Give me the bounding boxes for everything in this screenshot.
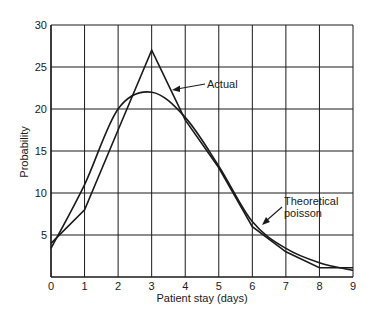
y-tick-label: 5 <box>41 229 47 241</box>
x-tick-label: 0 <box>48 280 54 292</box>
annotation-poisson: Theoretical poisson <box>262 195 338 225</box>
x-tick-label: 8 <box>316 280 322 292</box>
x-tick-label: 2 <box>115 280 121 292</box>
x-tick-label: 5 <box>216 280 222 292</box>
annotation-actual: Actual <box>172 78 238 92</box>
chart: 0123456789 51015202530 Actual Theoretica… <box>0 0 374 321</box>
y-tick-label: 15 <box>35 145 47 157</box>
y-tick-label: 10 <box>35 187 47 199</box>
x-axis-label: Patient stay (days) <box>156 292 247 304</box>
x-tick-label: 9 <box>350 280 356 292</box>
x-axis-ticks: 0123456789 <box>48 280 356 292</box>
x-tick-label: 1 <box>81 280 87 292</box>
annotation-poisson-label-line2: poisson <box>284 207 322 219</box>
y-tick-label: 20 <box>35 103 47 115</box>
y-axis-ticks: 51015202530 <box>35 19 47 241</box>
x-tick-label: 7 <box>283 280 289 292</box>
arrow-head-icon <box>172 86 180 93</box>
annotation-actual-label: Actual <box>207 78 238 90</box>
x-tick-label: 6 <box>249 280 255 292</box>
y-tick-label: 30 <box>35 19 47 31</box>
x-tick-label: 4 <box>182 280 188 292</box>
x-tick-label: 3 <box>149 280 155 292</box>
grid <box>51 25 353 277</box>
y-axis-label: Probability <box>18 126 30 178</box>
annotation-poisson-label-line1: Theoretical <box>284 195 338 207</box>
y-tick-label: 25 <box>35 61 47 73</box>
